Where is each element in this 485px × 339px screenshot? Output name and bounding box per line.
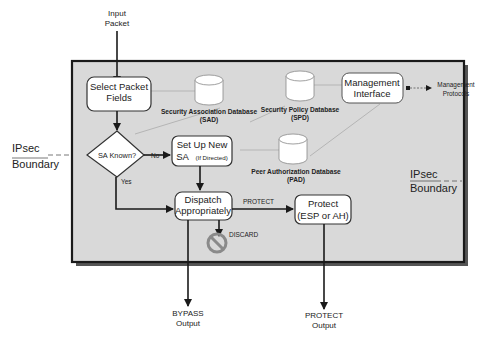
management-port bbox=[406, 86, 410, 90]
dispatch-line2: Appropriately bbox=[175, 205, 231, 216]
protect-output-line1: PROTECT bbox=[305, 311, 343, 320]
left-boundary-line2: Boundary bbox=[12, 158, 60, 170]
label-protect: PROTECT bbox=[243, 198, 274, 205]
ipsec-processing-diagram: IPsec Boundary IPsec Boundary Input Pack… bbox=[0, 0, 485, 339]
sa-known-label: SA Known? bbox=[98, 151, 136, 160]
right-boundary-line2: Boundary bbox=[410, 182, 458, 194]
spd-line2: (SPD) bbox=[291, 114, 309, 122]
left-boundary-label: IPsec Boundary bbox=[12, 142, 70, 170]
node-dispatch: Dispatch Appropriately bbox=[175, 192, 232, 220]
input-packet-line2: Packet bbox=[105, 19, 130, 28]
node-management-interface: Management Interface bbox=[342, 73, 403, 103]
node-setup-new-sa: Set Up New SA (If Directed) bbox=[172, 136, 232, 166]
mgmt-line1: Management bbox=[344, 77, 400, 88]
left-boundary-line1: IPsec bbox=[12, 142, 40, 154]
node-protect: Protect (ESP or AH) bbox=[295, 195, 351, 224]
spd-line1: Security Policy Database bbox=[261, 106, 340, 114]
protect-line2: (ESP or AH) bbox=[297, 210, 349, 221]
input-packet-line1: Input bbox=[108, 9, 127, 18]
setup-line1: Set Up New bbox=[177, 139, 228, 150]
pad-line1: Peer Authorization Database bbox=[251, 168, 341, 175]
bypass-line1: BYPASS bbox=[172, 309, 203, 318]
setup-line2-small: (If Directed) bbox=[195, 154, 227, 161]
sad-line2: (SAD) bbox=[200, 116, 218, 124]
mgmt-protocols-line2: Protocols bbox=[443, 90, 470, 97]
mgmt-line2: Interface bbox=[354, 88, 391, 99]
dispatch-line1: Dispatch bbox=[185, 194, 222, 205]
protect-line1: Protect bbox=[308, 198, 338, 209]
select-line1: Select Packet bbox=[90, 81, 148, 92]
label-yes: Yes bbox=[121, 178, 132, 185]
mgmt-protocols-line1: Management bbox=[437, 81, 475, 89]
select-line2: Fields bbox=[106, 92, 132, 103]
node-select-packet-fields: Select Packet Fields bbox=[87, 77, 151, 111]
label-discard: DISCARD bbox=[229, 231, 259, 238]
pad-line2: (PAD) bbox=[287, 176, 305, 184]
bypass-line2: Output bbox=[176, 319, 201, 328]
sad-line1: Security Association Database bbox=[161, 108, 257, 116]
label-no: No bbox=[151, 152, 160, 159]
right-boundary-line1: IPsec bbox=[410, 168, 438, 180]
setup-line2-main: SA bbox=[176, 151, 189, 162]
protect-output-line2: Output bbox=[312, 321, 337, 330]
